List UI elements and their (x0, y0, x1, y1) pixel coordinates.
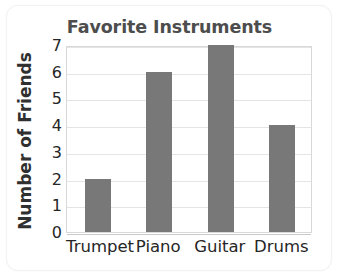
x-tick-label-piano: Piano (128, 236, 190, 257)
y-axis-title: Number of Friends (14, 48, 36, 234)
y-tick-label: 2 (46, 172, 62, 188)
chart-title: Favorite Instruments (0, 17, 339, 37)
y-tick-label: 1 (46, 198, 62, 214)
bar-piano (146, 72, 172, 232)
y-axis-tick-labels: 01234567 (44, 46, 62, 233)
bar-guitar (208, 45, 234, 232)
x-tick-label-guitar: Guitar (189, 236, 251, 257)
bar-series (67, 47, 311, 232)
gridline (67, 234, 311, 235)
y-tick-label: 0 (46, 225, 62, 241)
plot-area (66, 46, 312, 233)
bar-trumpet (85, 179, 111, 232)
x-axis-tick-labels: TrumpetPianoGuitarDrums (66, 236, 312, 260)
x-tick-label-trumpet: Trumpet (66, 236, 128, 257)
x-tick-label-drums: Drums (251, 236, 313, 257)
y-tick-label: 4 (46, 118, 62, 134)
y-tick-label: 6 (46, 65, 62, 81)
y-tick-label: 3 (46, 145, 62, 161)
bar-drums (269, 125, 295, 232)
y-tick-label: 5 (46, 91, 62, 107)
y-tick-label: 7 (46, 38, 62, 54)
